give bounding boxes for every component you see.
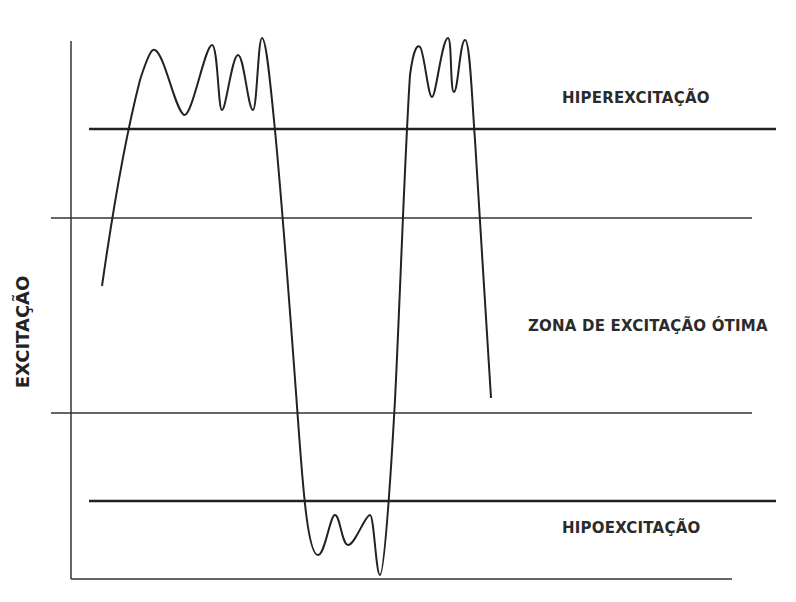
excitation-zones-diagram: EXCITAÇÃO HIPEREXCITAÇÃO ZONA DE EXCITAÇ… <box>0 0 796 602</box>
zone-label-hyperexcitation: HIPEREXCITAÇÃO <box>562 89 710 107</box>
zone-label-hypoexcitation: HIPOEXCITAÇÃO <box>562 519 700 537</box>
zone-label-optimal: ZONA DE EXCITAÇÃO ÓTIMA <box>528 317 768 335</box>
excitation-curve <box>102 38 491 575</box>
y-axis-label: EXCITAÇÃO <box>12 276 33 389</box>
